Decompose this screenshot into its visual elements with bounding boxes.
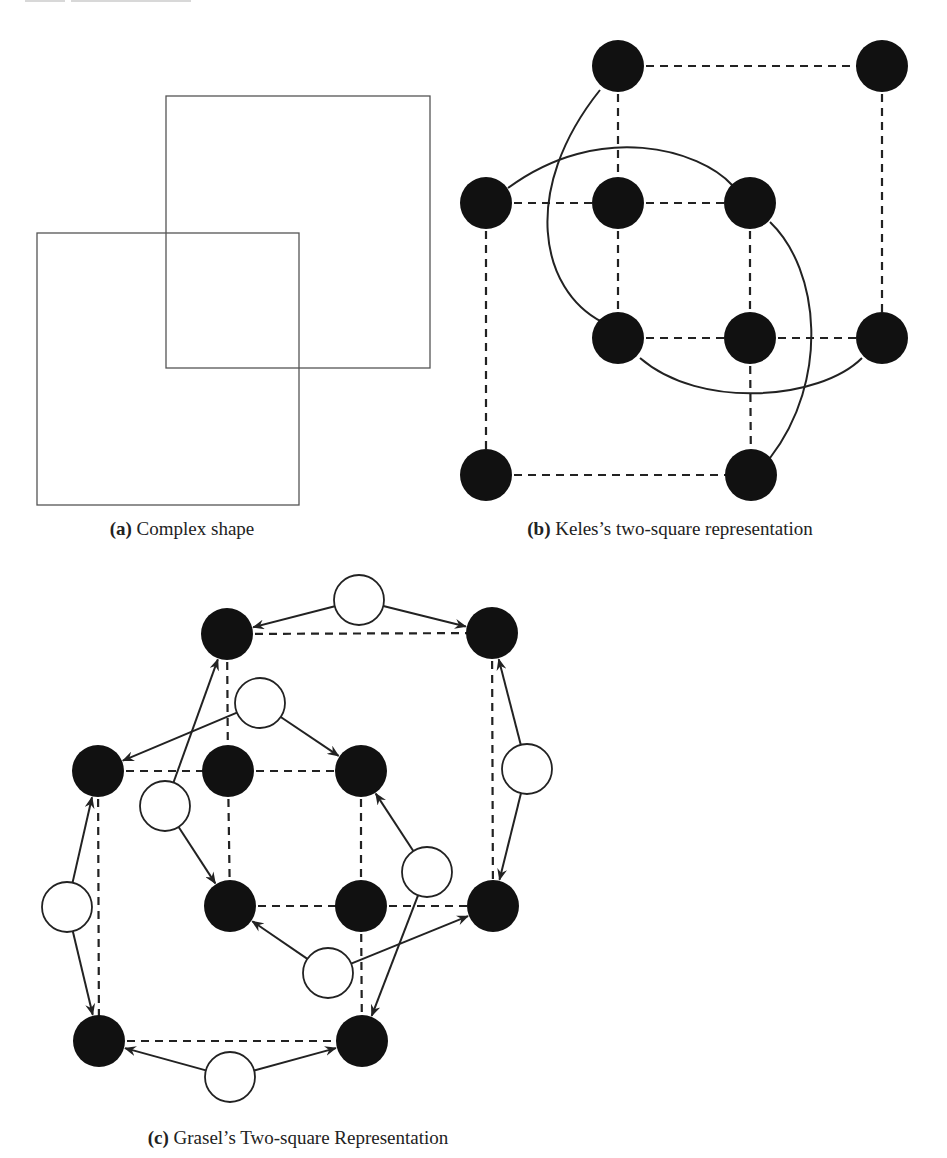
caption-label: (b) (527, 518, 550, 539)
white-node (235, 678, 285, 728)
white-node (502, 744, 552, 794)
white-nodes (42, 575, 552, 1102)
dashed-edge (492, 633, 493, 906)
arrow-edges (73, 606, 521, 1070)
arrow-edge (73, 797, 92, 882)
white-node (334, 575, 384, 625)
black-node (204, 880, 256, 932)
black-node (73, 1015, 125, 1067)
arrow-edge (383, 606, 466, 626)
black-nodes (72, 607, 519, 1067)
black-nodes (460, 40, 908, 501)
caption-text: Grasel’s Two-square Representation (169, 1127, 449, 1148)
caption-panel-c: (c) Grasel’s Two-square Representation (148, 1127, 449, 1149)
arrow-edge (73, 931, 93, 1014)
black-node (467, 880, 519, 932)
arrow-edge (253, 606, 335, 627)
black-node (592, 40, 644, 92)
arrow-edge (281, 717, 339, 756)
white-node (402, 847, 452, 897)
panel-c-grasel-representation (42, 575, 552, 1102)
square-outline (37, 233, 299, 505)
square-outline (166, 96, 430, 368)
black-node (72, 745, 124, 797)
black-node (201, 608, 253, 660)
white-node (205, 1052, 255, 1102)
caption-label: (c) (148, 1127, 169, 1148)
black-node (724, 177, 776, 229)
black-node (725, 449, 777, 501)
black-node (335, 880, 387, 932)
white-node (42, 882, 92, 932)
caption-label: (a) (110, 518, 132, 539)
caption-text: Keles’s two-square representation (551, 518, 813, 539)
arrow-edge (125, 1048, 206, 1070)
figure-canvas (0, 0, 947, 1158)
black-node (336, 1015, 388, 1067)
arrow-edge (254, 1048, 336, 1070)
curved-edges (508, 90, 862, 458)
arrow-edge (179, 827, 216, 883)
arrow-edge (500, 793, 521, 880)
white-node (303, 948, 353, 998)
caption-text: Complex shape (132, 518, 254, 539)
panel-b-keles-representation (460, 40, 908, 501)
panel-a-complex-shape (37, 96, 430, 505)
dashed-edges (486, 66, 882, 475)
arrow-edge (499, 659, 521, 745)
dashed-edge (227, 633, 492, 634)
black-node (592, 312, 644, 364)
curved-edge (770, 222, 811, 458)
arrow-edge (252, 921, 307, 959)
black-node (202, 745, 254, 797)
caption-panel-a: (a) Complex shape (110, 518, 255, 540)
white-node (140, 781, 190, 831)
black-node (460, 449, 512, 501)
dashed-edges (98, 633, 493, 1041)
black-node (466, 607, 518, 659)
dashed-edge (98, 771, 99, 1041)
black-node (460, 177, 512, 229)
black-node (856, 40, 908, 92)
black-node (724, 312, 776, 364)
black-node (335, 745, 387, 797)
arrow-edge (376, 794, 414, 851)
black-node (592, 177, 644, 229)
black-node (856, 312, 908, 364)
caption-panel-b: (b) Keles’s two-square representation (527, 518, 812, 540)
